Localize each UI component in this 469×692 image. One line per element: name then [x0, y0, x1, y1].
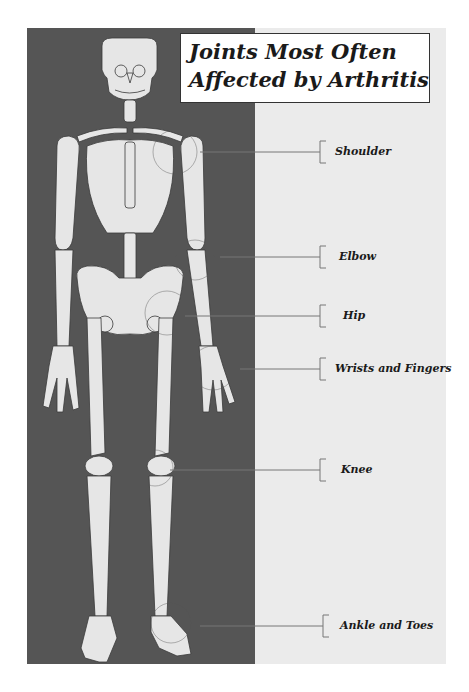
title-line-1: Joints Most Often	[189, 38, 421, 66]
title-box: Joints Most Often Affected by Arthritis	[180, 33, 430, 103]
label-elbow: Elbow	[339, 250, 376, 263]
skull-icon	[102, 38, 157, 100]
skeleton-illustration	[27, 28, 255, 664]
label-ankle-and-toes: Ankle and Toes	[340, 619, 433, 632]
label-hip: Hip	[343, 309, 365, 322]
label-shoulder: Shoulder	[335, 145, 391, 158]
label-knee: Knee	[341, 463, 373, 476]
title-line-2: Affected by Arthritis	[189, 66, 421, 94]
label-wrists-and-fingers: Wrists and Fingers	[335, 362, 451, 375]
